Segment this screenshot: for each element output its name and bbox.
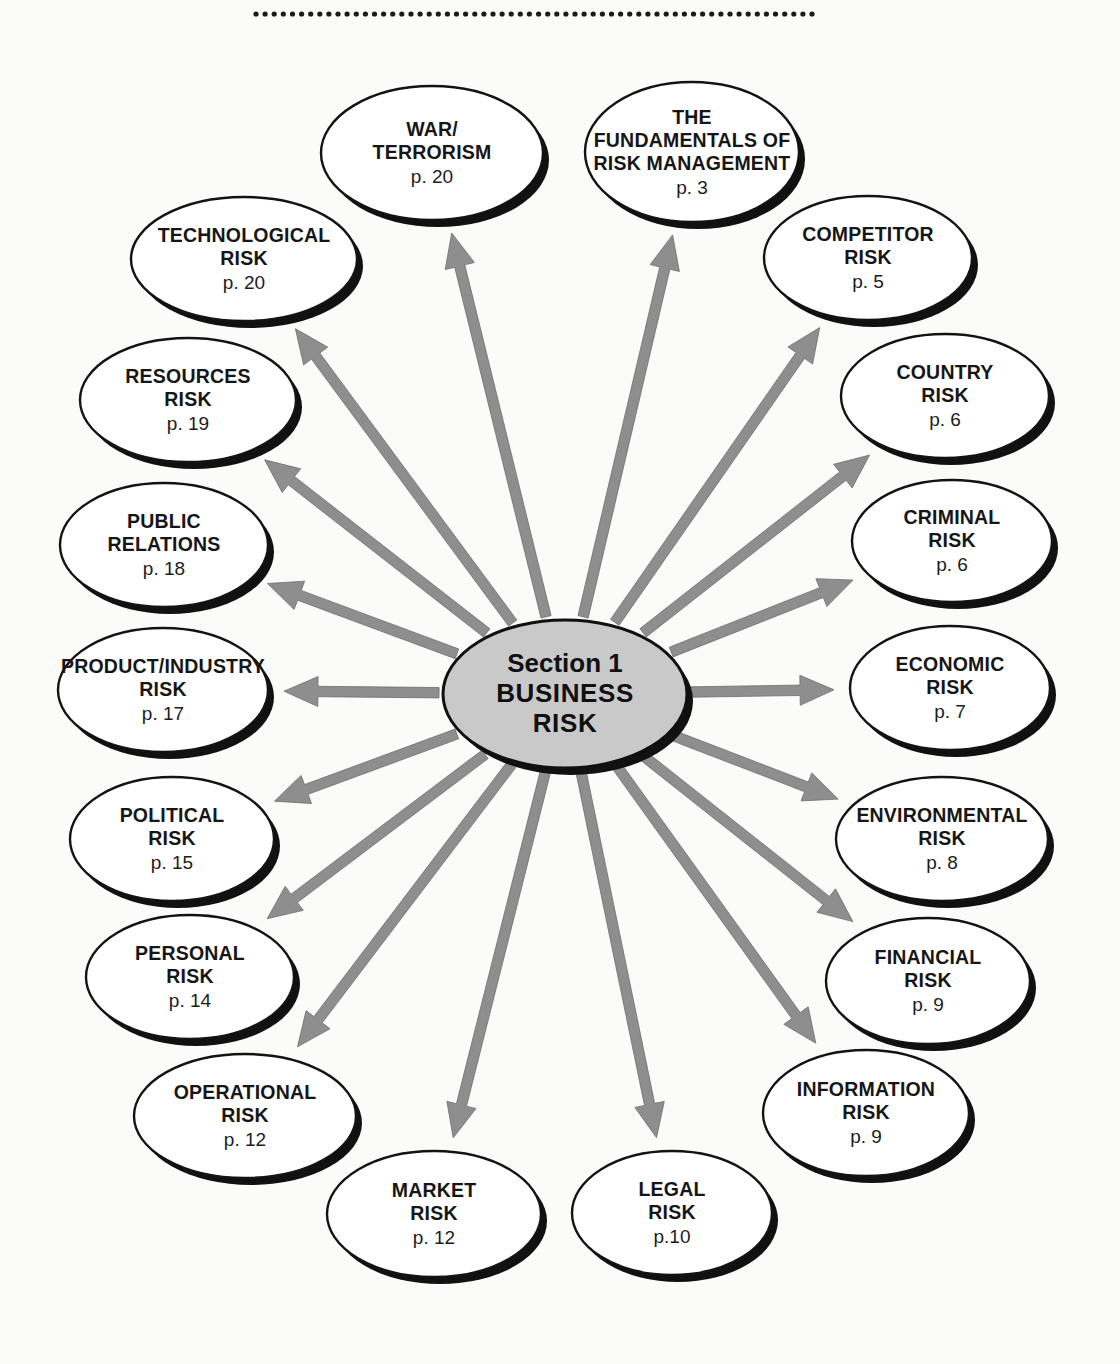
divider-dot bbox=[654, 11, 659, 16]
node-page-number: p. 3 bbox=[676, 177, 708, 198]
risk-node-country-risk[interactable]: COUNTRYRISKp. 6 bbox=[841, 334, 1055, 465]
node-title-line: FINANCIAL bbox=[875, 946, 982, 968]
node-title-line: RISK bbox=[648, 1201, 695, 1223]
business-risk-radial-diagram: THEFUNDAMENTALS OFRISK MANAGEMENTp. 3COM… bbox=[0, 0, 1120, 1364]
risk-node-financial-risk[interactable]: FINANCIALRISKp. 9 bbox=[826, 918, 1036, 1051]
node-page-number: p. 17 bbox=[142, 703, 184, 724]
divider-dot bbox=[755, 11, 760, 16]
divider-dot bbox=[317, 11, 322, 16]
node-title-line: RISK bbox=[139, 678, 186, 700]
divider-dot bbox=[618, 11, 623, 16]
node-page-number: p. 9 bbox=[850, 1126, 882, 1147]
node-title-line: RISK bbox=[921, 384, 968, 406]
divider-dot bbox=[518, 11, 523, 16]
node-title-line: ENVIRONMENTAL bbox=[856, 804, 1027, 826]
divider-dot bbox=[509, 11, 514, 16]
risk-node-market-risk[interactable]: MARKETRISKp. 12 bbox=[327, 1151, 547, 1284]
node-title-line: PRODUCT/INDUSTRY bbox=[61, 655, 265, 677]
node-page-number: p. 20 bbox=[411, 166, 453, 187]
arrow-to-product-industry-risk bbox=[284, 677, 439, 707]
divider-dot bbox=[673, 11, 678, 16]
divider-dot bbox=[791, 11, 796, 16]
risk-node-information-risk[interactable]: INFORMATIONRISKp. 9 bbox=[763, 1050, 975, 1183]
divider-dot bbox=[746, 11, 751, 16]
node-title-line: ECONOMIC bbox=[896, 653, 1005, 675]
node-title-line: RISK bbox=[164, 388, 211, 410]
diagram-canvas: THEFUNDAMENTALS OFRISK MANAGEMENTp. 3COM… bbox=[0, 0, 1120, 1364]
risk-node-fundamentals-of-risk-management[interactable]: THEFUNDAMENTALS OFRISK MANAGEMENTp. 3 bbox=[585, 82, 805, 229]
node-title-line: OPERATIONAL bbox=[174, 1081, 317, 1103]
node-title-line: PUBLIC bbox=[127, 510, 201, 532]
divider-dot bbox=[381, 11, 386, 16]
node-title-line: RISK bbox=[221, 1104, 268, 1126]
risk-node-product-industry-risk[interactable]: PRODUCT/INDUSTRYRISKp. 17 bbox=[58, 628, 274, 759]
divider-dot bbox=[272, 11, 277, 16]
divider-dot bbox=[554, 11, 559, 16]
divider-dot bbox=[263, 11, 268, 16]
risk-node-economic-risk[interactable]: ECONOMICRISKp. 7 bbox=[850, 626, 1056, 757]
divider-dot bbox=[345, 11, 350, 16]
divider-dot bbox=[809, 11, 814, 16]
node-title-line: RELATIONS bbox=[107, 533, 220, 555]
node-title-line: RISK bbox=[842, 1101, 889, 1123]
divider-dot bbox=[299, 11, 304, 16]
divider-dot bbox=[308, 11, 313, 16]
risk-node-personal-risk[interactable]: PERSONALRISKp. 14 bbox=[86, 915, 300, 1046]
divider-dot bbox=[782, 11, 787, 16]
node-title-line: TERRORISM bbox=[373, 141, 492, 163]
risk-node-war-terrorism[interactable]: WAR/TERRORISMp. 20 bbox=[321, 86, 549, 227]
risk-node-technological-risk[interactable]: TECHNOLOGICALRISKp. 20 bbox=[131, 197, 363, 328]
node-title-line: TECHNOLOGICAL bbox=[158, 224, 331, 246]
risk-node-public-relations[interactable]: PUBLICRELATIONSp. 18 bbox=[60, 483, 274, 614]
risk-node-legal-risk[interactable]: LEGALRISKp.10 bbox=[572, 1151, 778, 1282]
node-title-line: WAR/ bbox=[406, 118, 458, 140]
divider-dot bbox=[481, 11, 486, 16]
node-title-line: RISK bbox=[904, 969, 951, 991]
divider-dot bbox=[436, 11, 441, 16]
divider-dot bbox=[445, 11, 450, 16]
risk-node-competitor-risk[interactable]: COMPETITORRISKp. 5 bbox=[764, 196, 978, 327]
divider-dot bbox=[600, 11, 605, 16]
node-title-line: PERSONAL bbox=[135, 942, 245, 964]
node-title-line: RESOURCES bbox=[125, 365, 250, 387]
node-title-line: RISK bbox=[918, 827, 965, 849]
arrow-to-information-risk bbox=[612, 762, 816, 1043]
dotted-rule bbox=[253, 11, 814, 16]
risk-node-environmental-risk[interactable]: ENVIRONMENTALRISKp. 8 bbox=[836, 777, 1054, 908]
divider-dot bbox=[737, 11, 742, 16]
node-page-number: p.10 bbox=[654, 1226, 691, 1247]
node-title-line: THE bbox=[672, 106, 712, 128]
node-page-number: p. 8 bbox=[926, 852, 958, 873]
risk-node-criminal-risk[interactable]: CRIMINALRISKp. 6 bbox=[852, 480, 1058, 609]
divider-dot bbox=[718, 11, 723, 16]
node-title-line: RISK bbox=[844, 246, 891, 268]
divider-dot bbox=[764, 11, 769, 16]
node-title-line: COMPETITOR bbox=[802, 223, 934, 245]
node-page-number: p. 9 bbox=[912, 994, 944, 1015]
node-title-line: FUNDAMENTALS OF bbox=[594, 129, 791, 151]
divider-dot bbox=[253, 11, 258, 16]
divider-dot bbox=[800, 11, 805, 16]
node-title-line: LEGAL bbox=[638, 1178, 705, 1200]
hub-title-line2: RISK bbox=[533, 708, 598, 738]
divider-dot bbox=[500, 11, 505, 16]
divider-dot bbox=[363, 11, 368, 16]
node-page-number: p. 14 bbox=[169, 990, 212, 1011]
divider-dot bbox=[390, 11, 395, 16]
hub-section-label: Section 1 bbox=[507, 648, 623, 678]
divider-dot bbox=[563, 11, 568, 16]
node-title-line: CRIMINAL bbox=[904, 506, 1001, 528]
node-title-line: RISK bbox=[926, 676, 973, 698]
divider-dot bbox=[664, 11, 669, 16]
risk-node-resources-risk[interactable]: RESOURCESRISKp. 19 bbox=[80, 338, 302, 469]
hub-title-line1: BUSINESS bbox=[496, 678, 634, 708]
divider-dot bbox=[572, 11, 577, 16]
risk-node-political-risk[interactable]: POLITICALRISKp. 15 bbox=[70, 777, 280, 908]
node-page-number: p. 5 bbox=[852, 271, 884, 292]
node-title-line: RISK MANAGEMENT bbox=[594, 152, 791, 174]
divider-dot bbox=[463, 11, 468, 16]
divider-dot bbox=[591, 11, 596, 16]
risk-node-operational-risk[interactable]: OPERATIONALRISKp. 12 bbox=[134, 1054, 362, 1185]
node-title-line: RISK bbox=[148, 827, 195, 849]
node-title-line: MARKET bbox=[392, 1179, 477, 1201]
